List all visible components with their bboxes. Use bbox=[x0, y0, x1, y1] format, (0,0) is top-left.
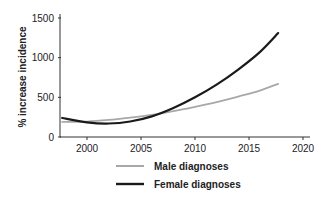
y-tick-label: 500 bbox=[37, 92, 54, 103]
legend: Male diagnosesFemale diagnoses bbox=[116, 161, 241, 190]
x-tick-label: 2015 bbox=[238, 143, 261, 154]
male-diagnoses-line bbox=[62, 84, 278, 122]
male-diagnoses-legend-label: Male diagnoses bbox=[154, 161, 229, 172]
female-diagnoses-legend-label: Female diagnoses bbox=[154, 179, 241, 190]
y-axis: 050010001500 bbox=[32, 13, 61, 143]
x-axis: 20002005201020152020 bbox=[60, 137, 315, 154]
x-tick-label: 2020 bbox=[292, 143, 315, 154]
x-tick-label: 2000 bbox=[76, 143, 99, 154]
x-tick-label: 2010 bbox=[184, 143, 207, 154]
y-tick-label: 0 bbox=[48, 132, 54, 143]
y-tick-label: 1500 bbox=[32, 13, 55, 24]
y-axis-title: % increase incidence bbox=[17, 26, 28, 128]
x-tick-label: 2005 bbox=[130, 143, 153, 154]
line-chart: 050010001500 20002005201020152020 % incr… bbox=[0, 0, 327, 200]
female-diagnoses-line bbox=[62, 33, 278, 123]
series-lines bbox=[62, 33, 278, 123]
y-tick-label: 1000 bbox=[32, 52, 55, 63]
